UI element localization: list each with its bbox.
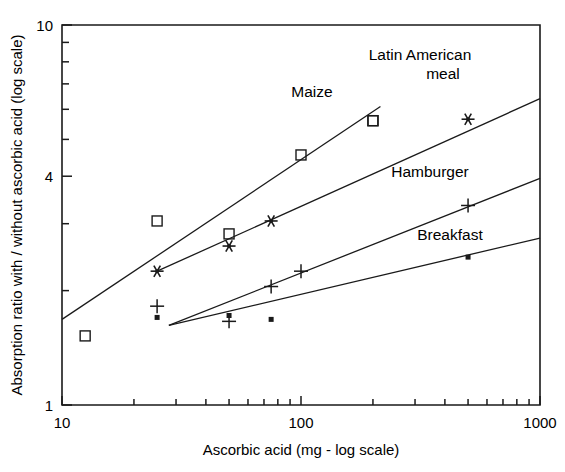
series-label: Breakfast bbox=[417, 226, 483, 243]
marker-breakfast bbox=[269, 317, 274, 322]
marker-breakfast bbox=[466, 255, 471, 260]
chart-figure: 1010010001410 MaizeLatin AmericanmealHam… bbox=[0, 0, 565, 472]
x-tick-label: 10 bbox=[54, 414, 71, 431]
y-tick-label: 1 bbox=[45, 397, 53, 414]
series-label: Latin American bbox=[369, 46, 472, 63]
x-axis-title: Ascorbic acid (mg - log scale) bbox=[203, 441, 400, 458]
series-label: Hamburger bbox=[391, 163, 469, 180]
chart-svg: 1010010001410 MaizeLatin AmericanmealHam… bbox=[0, 0, 565, 472]
y-tick-label: 10 bbox=[36, 17, 53, 34]
marker-breakfast bbox=[155, 315, 160, 320]
x-tick-label: 100 bbox=[288, 414, 313, 431]
series-label: meal bbox=[426, 65, 460, 82]
y-axis-title: Absorption ratio with / without ascorbic… bbox=[8, 34, 25, 395]
y-tick-label: 4 bbox=[45, 168, 53, 185]
x-tick-label: 1000 bbox=[523, 414, 556, 431]
marker-breakfast bbox=[227, 313, 232, 318]
series-label: Maize bbox=[291, 83, 332, 100]
